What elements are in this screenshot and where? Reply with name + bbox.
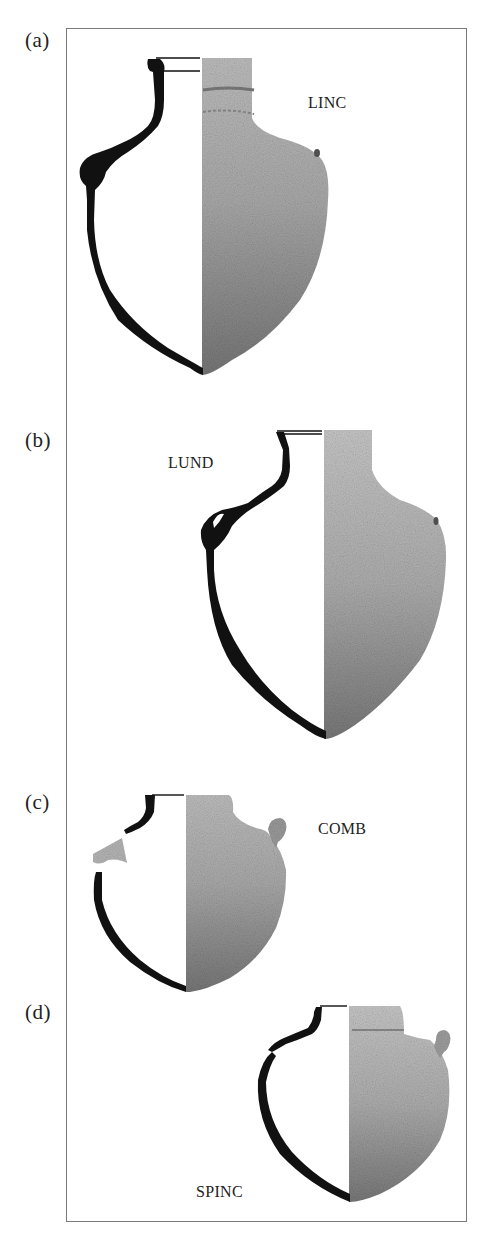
type-label-linc: LINC [308, 94, 347, 112]
pot-b-exterior [323, 430, 446, 739]
type-label-spinc: SPINC [196, 1183, 243, 1201]
pot-a-profile [80, 57, 203, 375]
pot-b-lund [201, 430, 446, 739]
panel-label-d: (d) [25, 1000, 51, 1025]
pot-d-spinc [258, 1006, 451, 1202]
type-label-comb: COMB [318, 820, 366, 838]
panel-label-c: (c) [25, 790, 50, 815]
panel-label-b: (b) [25, 428, 51, 453]
pot-d-exterior [348, 1006, 450, 1202]
pot-d-profile [258, 1006, 350, 1202]
pot-c-comb [93, 795, 286, 992]
panel-label-a: (a) [25, 28, 50, 53]
pot-a-linc [80, 57, 329, 375]
pot-c-profile [93, 795, 186, 992]
type-label-lund: LUND [168, 454, 214, 472]
pottery-drawings [0, 0, 488, 1239]
pot-c-exterior [185, 795, 286, 992]
pot-b-profile [201, 430, 326, 739]
